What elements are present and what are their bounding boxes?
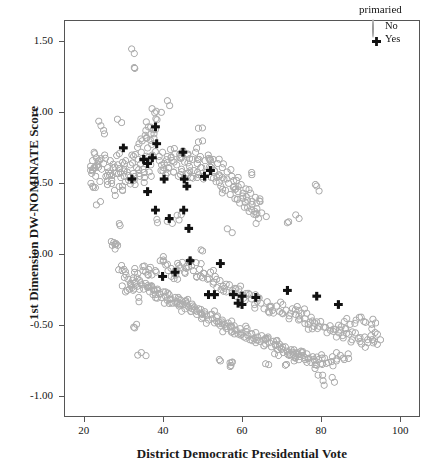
open-circle-icon	[371, 20, 382, 31]
y-tick-label: 1.00	[9, 105, 53, 117]
x-tick-label: 60	[222, 424, 262, 436]
x-axis-title: District Democratic Presidential Vote	[64, 446, 420, 462]
y-tick-label: 1.50	[9, 34, 53, 46]
y-tick-label: 0.00	[9, 247, 53, 259]
x-tick-mark	[163, 417, 164, 422]
x-tick-mark	[400, 417, 401, 422]
x-tick-label: 80	[301, 424, 341, 436]
plot-area	[64, 20, 420, 417]
scatter-plot-figure: 1st Dimension DW-NOMINATE Score 1.501.00…	[0, 0, 435, 472]
x-tick-label: 40	[143, 424, 183, 436]
legend: primaried No Yes	[353, 3, 429, 45]
scatter-canvas	[65, 21, 419, 416]
y-tick-label: 0.50	[9, 176, 53, 188]
x-tick-mark	[84, 417, 85, 422]
legend-label-no: No	[385, 20, 398, 31]
x-tick-mark	[321, 417, 322, 422]
legend-item-yes: Yes	[371, 32, 429, 44]
legend-title: primaried	[359, 3, 429, 15]
plus-icon	[371, 33, 382, 44]
y-tick-label: -1.00	[9, 389, 53, 401]
x-tick-label: 20	[64, 424, 104, 436]
y-tick-label: -0.50	[9, 318, 53, 330]
legend-label-yes: Yes	[385, 33, 400, 44]
x-tick-label: 100	[380, 424, 420, 436]
x-tick-mark	[242, 417, 243, 422]
y-axis-title: 1st Dimension DW-NOMINATE Score	[26, 93, 42, 333]
legend-item-no: No	[371, 19, 429, 31]
